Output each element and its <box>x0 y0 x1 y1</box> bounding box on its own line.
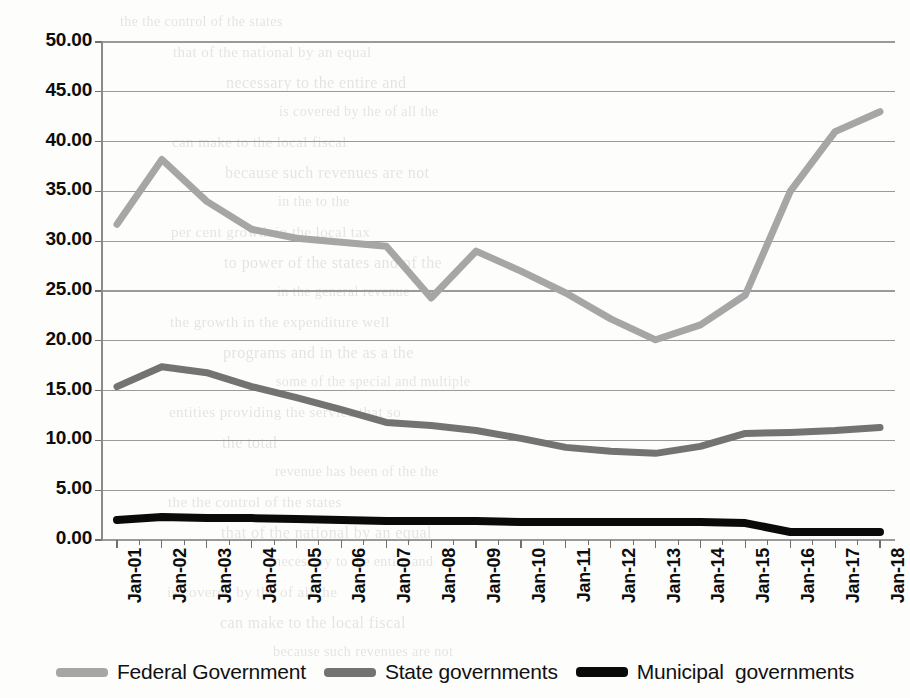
y-axis-tick-label: 40.00 <box>6 129 92 151</box>
legend-label: State governments <box>385 660 558 684</box>
y-axis-tick-label: 45.00 <box>6 79 92 101</box>
x-axis-tick-label: Jan-07 <box>394 548 415 603</box>
gridlines <box>95 42 895 540</box>
y-axis-tick-label: 15.00 <box>6 378 92 400</box>
x-axis-tick-label: Jan-14 <box>708 548 729 603</box>
x-axis-tick-label: Jan-16 <box>798 548 819 603</box>
chart-legend: Federal GovernmentState governmentsMunic… <box>0 652 910 692</box>
legend-item[interactable]: Federal Government <box>56 660 306 684</box>
x-axis-ticks <box>117 540 880 548</box>
legend-label: Federal Government <box>117 660 306 684</box>
y-axis-tick-label: 5.00 <box>6 477 92 499</box>
x-axis-tick-label: Jan-15 <box>753 548 774 603</box>
x-axis-tick-label: Jan-17 <box>843 548 864 603</box>
legend-color-swatch <box>56 668 108 677</box>
line-chart: 0.005.0010.0015.0020.0025.0030.0035.0040… <box>0 0 910 698</box>
y-axis-tick-label: 10.00 <box>6 427 92 449</box>
y-axis-tick-label: 50.00 <box>6 29 92 51</box>
x-axis-tick-label: Jan-11 <box>574 548 595 602</box>
y-axis-tick-label: 20.00 <box>6 328 92 350</box>
x-axis-tick-label: Jan-02 <box>170 548 191 603</box>
y-axis-tick-label: 35.00 <box>6 178 92 200</box>
series-lines <box>117 112 880 532</box>
legend-item[interactable]: Municipal governments <box>576 660 854 684</box>
x-axis-tick-label: Jan-04 <box>260 548 281 603</box>
x-axis-tick-label: Jan-08 <box>439 548 460 603</box>
x-axis-tick-label: Jan-12 <box>619 548 640 603</box>
x-axis-tick-label: Jan-06 <box>349 548 370 603</box>
x-axis-tick-label: Jan-03 <box>215 548 236 603</box>
x-axis-tick-label: Jan-09 <box>484 548 505 603</box>
x-axis-tick-label: Jan-10 <box>529 548 550 603</box>
legend-label: Municipal governments <box>637 660 854 684</box>
legend-color-swatch <box>324 668 376 677</box>
x-axis-tick-label: Jan-01 <box>125 548 146 603</box>
y-axis-tick-label: 30.00 <box>6 228 92 250</box>
legend-item[interactable]: State governments <box>324 660 558 684</box>
x-axis-tick-label: Jan-05 <box>305 548 326 603</box>
x-axis-tick-label: Jan-13 <box>664 548 685 603</box>
y-axis-tick-label: 0.00 <box>6 527 92 549</box>
y-axis-tick-label: 25.00 <box>6 278 92 300</box>
x-axis-tick-label: Jan-18 <box>888 548 909 603</box>
legend-color-swatch <box>576 667 628 677</box>
